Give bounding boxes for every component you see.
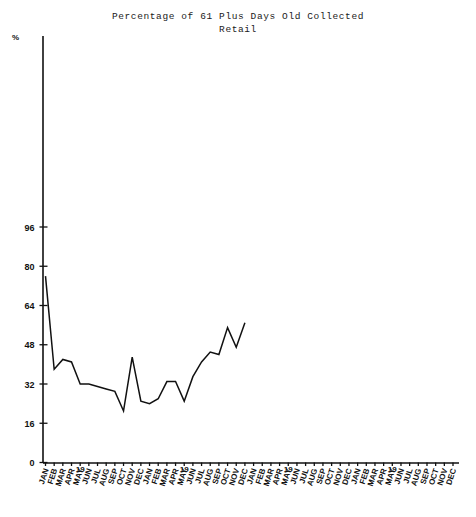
y-tick-label: 64 <box>24 301 34 311</box>
y-axis-tick-labels: 0163248648096 <box>24 223 34 469</box>
y-axis-percent-label: % <box>12 33 19 42</box>
x-axis-year-label: 19 <box>284 465 293 474</box>
x-axis-year-label: 19 <box>76 465 85 474</box>
data-series-line <box>46 276 245 411</box>
y-tick-label: 32 <box>24 380 34 390</box>
chart-plot-area: % 0163248648096 JANFEBMARAPRMAYJUNJULAUG… <box>0 0 476 517</box>
x-axis-year-label: 19 <box>180 465 189 474</box>
y-tick-label: 80 <box>24 262 34 272</box>
y-tick-label: 48 <box>24 340 34 350</box>
chart-root: Percentage of 61 Plus Days Old Collected… <box>0 0 476 517</box>
y-tick-label: 96 <box>24 223 34 233</box>
x-axis-year-label: 19 <box>388 465 397 474</box>
y-tick-label: 16 <box>24 419 34 429</box>
y-tick-label: 0 <box>29 458 34 468</box>
